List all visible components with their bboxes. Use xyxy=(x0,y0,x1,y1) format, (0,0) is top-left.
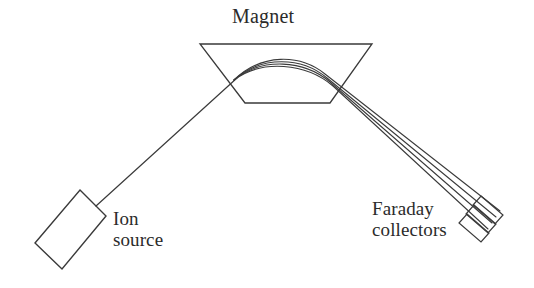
faraday-label-line1: Faraday xyxy=(372,198,434,219)
faraday-collector-group xyxy=(459,196,503,242)
ion-source-box xyxy=(35,190,106,269)
magnet-label: Magnet xyxy=(232,5,294,27)
mass-spectrometer-diagram: Magnet Ionsource Faradaycollectors xyxy=(0,0,534,288)
incident-ion-beam xyxy=(96,78,237,206)
faraday-collectors-label: Faradaycollectors xyxy=(372,198,447,241)
deflected-beam-1 xyxy=(234,59,500,211)
deflected-beam-2 xyxy=(234,62,496,217)
ion-source-label-line1: Ion xyxy=(113,208,139,229)
schematic-canvas xyxy=(0,0,534,288)
ion-source-label: Ionsource xyxy=(113,208,163,251)
faraday-collector-2 xyxy=(466,205,496,233)
faraday-collector-3 xyxy=(459,214,489,242)
faraday-label-line2: collectors xyxy=(372,219,447,240)
deflected-beam-3 xyxy=(234,64,492,223)
ion-source-label-line2: source xyxy=(113,229,163,250)
deflected-beam-group xyxy=(234,59,500,229)
deflected-beam-4 xyxy=(234,66,488,229)
